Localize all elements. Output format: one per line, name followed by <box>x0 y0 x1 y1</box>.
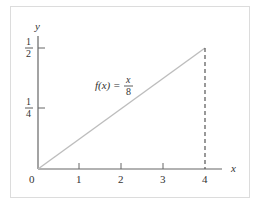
x-tick-label-4: 4 <box>202 173 208 185</box>
y-tick-quarter-denominator: 4 <box>26 108 31 119</box>
x-tick-label-3: 3 <box>160 173 166 185</box>
y-axis-label: y <box>34 20 40 32</box>
chart-plot: y x 0 1 2 3 4 1 2 1 4 f(x) = x 8 <box>0 0 263 204</box>
x-tick-label-2: 2 <box>118 173 124 185</box>
function-label-numerator: x <box>125 74 131 85</box>
y-tick-half-denominator: 2 <box>26 48 31 59</box>
function-label-lhs: f(x) = <box>95 79 120 92</box>
function-line <box>38 48 205 169</box>
origin-label: 0 <box>29 173 35 185</box>
y-tick-half-numerator: 1 <box>26 36 31 47</box>
function-label-denominator: 8 <box>126 86 131 97</box>
x-tick-label-1: 1 <box>76 173 82 185</box>
y-tick-quarter-numerator: 1 <box>26 96 31 107</box>
x-axis-label: x <box>230 162 236 174</box>
